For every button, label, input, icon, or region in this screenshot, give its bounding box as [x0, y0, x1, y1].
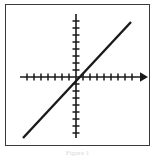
x-axis-arrowhead-icon: [140, 72, 148, 82]
coordinate-plane-graph: [0, 0, 155, 159]
figure-caption: Figure 1: [0, 149, 155, 158]
y-axis-group: [73, 14, 80, 138]
plotted-line-series: [23, 22, 131, 138]
figure-container: Figure 1: [0, 0, 155, 159]
